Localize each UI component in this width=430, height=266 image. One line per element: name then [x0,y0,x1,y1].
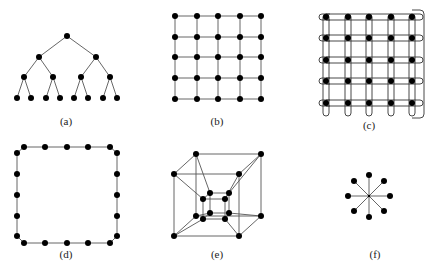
hypercube-node [258,151,264,157]
mesh-node [215,13,221,19]
tree-node [71,95,77,101]
tree-node [43,95,49,101]
mesh-node [194,34,200,40]
hypercube-node [193,213,199,219]
star-node [345,193,351,199]
mesh-node [215,54,221,60]
torus-node [409,57,415,63]
ring-node [14,213,20,219]
ring-node [14,192,20,198]
mesh-node [237,54,243,60]
hypercube-node [171,171,177,177]
tree-node [107,74,113,80]
tree-node [114,95,120,101]
torus-node [409,100,415,106]
hypercube-node [222,216,228,222]
ring-node [85,240,91,246]
torus-node [409,78,415,84]
mesh-node [237,34,243,40]
panel-label-d: (d) [60,248,73,261]
star-node [351,178,357,184]
panel-a-binary-tree: (a) [14,33,120,128]
star-node [351,208,357,214]
ring-node [114,213,120,219]
tree-node [57,95,63,101]
mesh-node [215,96,221,102]
torus-node [366,57,372,63]
ring-node [21,240,27,246]
ring-node [114,171,120,177]
tree-node [100,95,106,101]
torus-node [366,78,372,84]
torus-node [323,78,329,84]
mesh-node [258,13,264,19]
panel-label-c: (c) [363,119,376,132]
mesh-node [258,54,264,60]
star-node [387,193,393,199]
hypercube-node [200,216,206,222]
ring-node [85,144,91,150]
panel-label-e: (e) [211,248,224,261]
mesh-node [194,75,200,81]
mesh-node [172,96,178,102]
hypercube-node [222,196,228,202]
mesh-node [172,13,178,19]
ring-node [107,144,113,150]
star-node [381,208,387,214]
hypercube-node [193,151,199,157]
hypercube-node [236,233,242,239]
torus-node [388,14,394,20]
ring-node [114,150,120,156]
panel-c-torus: (c) [319,10,424,132]
panel-b-mesh: (b) [172,13,264,128]
tree-node [64,33,70,39]
mesh-node [237,75,243,81]
torus-node [323,35,329,41]
tree-node [85,95,91,101]
torus-node [345,35,351,41]
torus-node [345,100,351,106]
mesh-node [258,75,264,81]
mesh-node [172,75,178,81]
panel-d-ring: (d) [14,144,120,261]
torus-node [366,14,372,20]
mesh-node [194,96,200,102]
torus-node [323,14,329,20]
tree-node [50,74,56,80]
torus-node [323,57,329,63]
hypercube-node [258,213,264,219]
torus-node [409,14,415,20]
ring-node [14,171,20,177]
hypercube-node [236,171,242,177]
ring-node [42,240,48,246]
ring-node [107,240,113,246]
panel-label-f: (f) [370,248,381,261]
tree-node [28,95,34,101]
hypercube-node [207,190,213,196]
torus-node [366,35,372,41]
ring-node [42,144,48,150]
panel-f-star: (f) [345,172,393,261]
panel-e-hypercube: (e) [171,151,264,261]
panel-label-b: (b) [211,115,224,128]
torus-node [388,78,394,84]
mesh-node [237,96,243,102]
ring-node [14,150,20,156]
ring-node [64,144,70,150]
ring-node [114,192,120,198]
hypercube-node [226,210,232,216]
torus-node [388,57,394,63]
mesh-node [194,54,200,60]
torus-node [388,35,394,41]
mesh-node [194,13,200,19]
torus-node [323,100,329,106]
tree-node [36,54,42,60]
tree-node [78,74,84,80]
star-node [366,172,372,178]
star-node [366,214,372,220]
hypercube-node [200,196,206,202]
torus-node [345,78,351,84]
star-hub [368,195,370,197]
ring-node [14,233,20,239]
mesh-node [172,34,178,40]
